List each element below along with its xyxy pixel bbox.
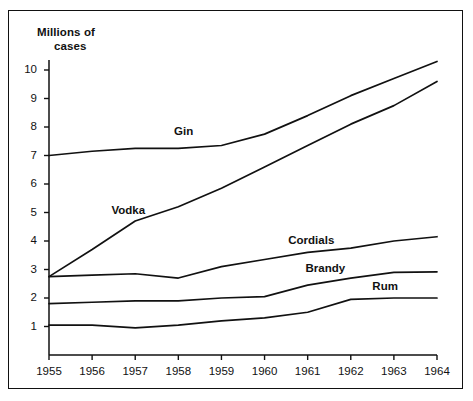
y-axis-tick-label: 2 xyxy=(15,292,37,303)
series-line-cordials xyxy=(49,237,437,278)
x-axis-tick-label: 1960 xyxy=(245,366,285,377)
y-axis-tick-label: 5 xyxy=(15,207,37,218)
series-label-gin: Gin xyxy=(174,125,193,137)
x-axis-tick-label: 1955 xyxy=(29,366,69,377)
series-line-vodka xyxy=(49,81,437,276)
y-axis-tick-label: 10 xyxy=(15,64,37,75)
chart-frame: Millions of cases 12345678910 1955195619… xyxy=(8,10,463,389)
x-axis-tick-label: 1962 xyxy=(331,366,371,377)
x-axis-tick-label: 1957 xyxy=(115,366,155,377)
series-label-rum: Rum xyxy=(372,280,398,292)
y-axis-tick-label: 1 xyxy=(15,321,37,332)
series-label-brandy: Brandy xyxy=(306,262,346,274)
x-axis-tick-label: 1961 xyxy=(288,366,328,377)
axes-group xyxy=(44,60,437,360)
y-axis-tick-label: 3 xyxy=(15,264,37,275)
series-label-vodka: Vodka xyxy=(112,204,146,216)
x-axis-tick-label: 1959 xyxy=(201,366,241,377)
series-label-cordials: Cordials xyxy=(288,234,334,246)
y-axis-tick-label: 7 xyxy=(15,150,37,161)
y-axis-tick-label: 4 xyxy=(15,235,37,246)
x-axis-tick-label: 1956 xyxy=(72,366,112,377)
line-chart-plot xyxy=(9,11,464,390)
y-axis-tick-label: 9 xyxy=(15,93,37,104)
x-axis-tick-label: 1958 xyxy=(158,366,198,377)
x-axis-tick-label: 1963 xyxy=(374,366,414,377)
y-axis-tick-label: 8 xyxy=(15,121,37,132)
x-axis-tick-label: 1964 xyxy=(417,366,457,377)
y-axis-tick-label: 6 xyxy=(15,178,37,189)
series-line-gin xyxy=(49,61,437,155)
